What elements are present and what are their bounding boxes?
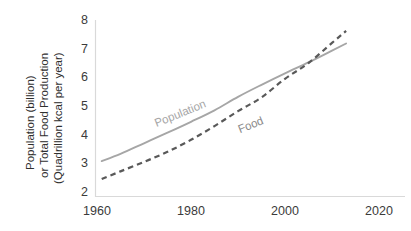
x-axis-tick-labels: 1960 1980 2000 2020: [83, 204, 393, 218]
line-chart: Population (billion) or Total Food Produ…: [0, 0, 411, 231]
y-tick-label: 3: [81, 156, 88, 170]
series-annotation-population: Population: [153, 97, 208, 128]
y-axis-title-line-3: (Quadrillion kcal per year): [52, 52, 64, 184]
y-tick-label: 7: [81, 42, 88, 56]
y-axis-title: Population (billion) or Total Food Produ…: [24, 52, 64, 184]
y-axis-tick-labels: 8 7 6 5 4 3 2: [81, 13, 88, 199]
y-tick-label: 4: [81, 128, 88, 142]
chart-container: Population (billion) or Total Food Produ…: [0, 0, 411, 231]
y-axis-title-line-2: or Total Food Production: [38, 53, 50, 178]
series-annotation-food: Food: [236, 114, 265, 135]
y-tick-label: 6: [81, 70, 88, 84]
x-tick-label: 2020: [365, 204, 393, 218]
y-axis-title-line-1: Population (billion): [24, 75, 36, 170]
x-tick-label: 1980: [177, 204, 205, 218]
y-tick-label: 2: [81, 185, 88, 199]
x-tick-label: 1960: [83, 204, 111, 218]
y-tick-label: 5: [81, 99, 88, 113]
x-tick-label: 2000: [271, 204, 299, 218]
y-tick-label: 8: [81, 13, 88, 27]
